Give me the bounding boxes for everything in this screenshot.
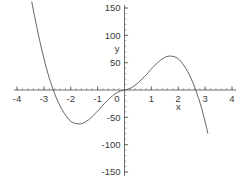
- y-axis-label: y: [115, 43, 120, 54]
- y-tick-label: -50: [107, 112, 121, 123]
- x-tick-label: 4: [229, 93, 234, 104]
- x-tick-label: -1: [93, 93, 101, 104]
- x-tick-label: 1: [149, 93, 154, 104]
- y-tick-label: -150: [101, 166, 120, 177]
- x-axis-tick-labels: -4-3-2-101234: [13, 93, 235, 104]
- plot-canvas: -4-3-2-101234 -150-100-5050100150 x y: [0, 0, 244, 181]
- y-tick-label: 100: [105, 30, 121, 41]
- x-tick-label: -4: [13, 93, 21, 104]
- x-tick-label: -3: [40, 93, 48, 104]
- y-tick-label: -100: [101, 139, 120, 150]
- y-tick-label: 150: [105, 2, 121, 13]
- x-axis-label: x: [176, 101, 181, 112]
- x-tick-label: 3: [202, 93, 207, 104]
- x-tick-label: -2: [67, 93, 75, 104]
- plot-figure: -4-3-2-101234 -150-100-5050100150 x y: [0, 0, 244, 181]
- y-tick-label: 50: [110, 57, 121, 68]
